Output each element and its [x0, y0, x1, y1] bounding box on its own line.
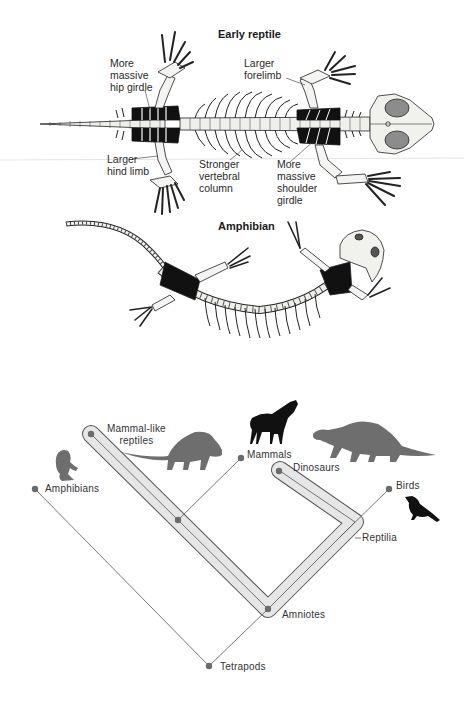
node-synapsid-split: [175, 517, 181, 523]
node-amphibians: [32, 486, 38, 492]
amniote-band-fill: [91, 434, 355, 609]
label-birds: Birds: [396, 480, 420, 491]
frog-icon: [56, 450, 78, 481]
label-amphibians: Amphibians: [45, 483, 99, 494]
horse-icon: [250, 400, 298, 444]
node-tetrapods: [206, 663, 212, 669]
dinosaur-icon: [313, 421, 436, 462]
node-amniotes: [265, 606, 271, 612]
label-reptilia: Reptilia: [362, 532, 397, 543]
label-tetrapods: Tetrapods: [220, 661, 266, 672]
label-mammal-like-reptiles: Mammal-like reptiles: [107, 423, 166, 447]
bird-icon: [405, 496, 440, 522]
label-amniotes: Amniotes: [282, 609, 325, 620]
label-dinosaurs: Dinosaurs: [293, 462, 340, 473]
node-mammal-like-reptiles: [88, 431, 94, 437]
cladogram: [0, 0, 464, 704]
node-dinosaurs: [276, 468, 282, 474]
node-mammals: [238, 455, 244, 461]
node-birds: [386, 486, 392, 492]
amniote-band-outline: [91, 434, 355, 609]
label-mammals: Mammals: [247, 449, 292, 460]
figure: Early reptile More massive hip girdle La…: [0, 0, 464, 704]
